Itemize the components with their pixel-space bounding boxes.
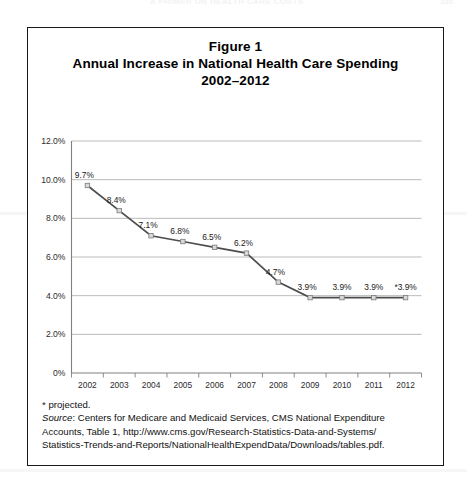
data-point-marker [181, 239, 185, 243]
data-point-marker [340, 295, 344, 299]
data-point-label: 6.2% [234, 238, 254, 248]
x-axis-tick-label: 2011 [365, 380, 383, 390]
data-point-label: 3.9% [332, 282, 352, 292]
data-point-label: 9.7% [75, 170, 95, 180]
running-head-page-number: 105 [440, 0, 453, 6]
scan-artifact-band [0, 469, 467, 472]
source-line-2: Accounts, Table 1, http://www.cms.gov/Re… [42, 425, 432, 438]
data-point-marker [85, 183, 89, 187]
figure-container: Figure 1 Annual Increase in National Hea… [27, 27, 444, 466]
x-axis-tick-label: 2012 [396, 380, 415, 390]
y-axis-tick-label: 2.0% [46, 329, 66, 339]
y-axis-tick-label: 10.0% [41, 175, 66, 185]
running-head-title: A PRIMER ON HEALTH CARE COSTS [150, 0, 303, 6]
y-axis-tick-label: 6.0% [46, 252, 66, 262]
y-axis-tick-label: 8.0% [46, 213, 66, 223]
data-point-marker [149, 234, 153, 238]
figure-title-line-3: 2002–2012 [28, 72, 443, 89]
x-axis-tick-label: 2002 [78, 380, 97, 390]
data-point-label: 6.5% [202, 232, 222, 242]
x-axis-tick-label: 2003 [110, 380, 129, 390]
figure-title: Figure 1 Annual Increase in National Hea… [28, 38, 443, 89]
x-axis-tick-label: 2005 [174, 380, 193, 390]
data-point-label: 6.8% [170, 226, 190, 236]
data-point-label: *3.9% [394, 282, 417, 292]
y-axis-tick-label: 4.0% [46, 291, 66, 301]
data-point-marker [212, 245, 216, 249]
y-axis-tick-label: 12.0% [41, 136, 66, 146]
chart-canvas: 0%2.0%4.0%6.0%8.0%10.0%12.0% 20022003200… [28, 104, 445, 394]
data-point-marker [276, 280, 280, 284]
x-axis-tick-label: 2009 [301, 380, 320, 390]
data-point-marker [308, 295, 312, 299]
x-axis-tick-label: 2007 [237, 380, 256, 390]
source-line-3: Statistics-Trends-and-Reports/NationalHe… [42, 438, 432, 451]
data-point-marker [372, 295, 376, 299]
y-axis-tick-labels: 0%2.0%4.0%6.0%8.0%10.0%12.0% [41, 136, 66, 378]
data-point-marker [117, 208, 121, 212]
page-running-head: A PRIMER ON HEALTH CARE COSTS 105 [0, 0, 467, 10]
figure-title-line-2: Annual Increase in National Health Care … [28, 55, 443, 72]
data-point-label: 3.9% [298, 282, 318, 292]
x-axis-tick-labels: 2002200320042005200620072008200920102011… [78, 380, 415, 390]
data-point-label: 3.9% [364, 282, 384, 292]
line-chart: 0%2.0%4.0%6.0%8.0%10.0%12.0% 20022003200… [28, 104, 445, 394]
x-axis-tick-label: 2008 [269, 380, 288, 390]
figure-notes: * projected. Source: Centers for Medicar… [42, 398, 432, 451]
data-point-marker [244, 251, 248, 255]
y-axis-tick-label: 0% [53, 368, 66, 378]
figure-title-line-1: Figure 1 [28, 38, 443, 55]
x-axis-tick-label: 2010 [333, 380, 352, 390]
source-label: Source [42, 412, 72, 423]
x-axis-tick-label: 2006 [205, 380, 224, 390]
data-point-marker [403, 295, 407, 299]
data-point-label: 8.4% [107, 195, 127, 205]
projected-note: * projected. [42, 398, 432, 411]
source-line-1: Source: Centers for Medicare and Medicai… [42, 411, 432, 424]
x-axis-ticks [72, 373, 422, 378]
source-line-1-rest: : Centers for Medicare and Medicaid Serv… [72, 412, 384, 423]
data-point-label: 7.1% [138, 220, 158, 230]
data-point-labels-group: 9.7%8.4%7.1%6.8%6.5%6.2%4.7%3.9%3.9%3.9%… [75, 170, 417, 292]
x-axis-tick-label: 2004 [142, 380, 161, 390]
data-point-label: 4.7% [266, 267, 286, 277]
